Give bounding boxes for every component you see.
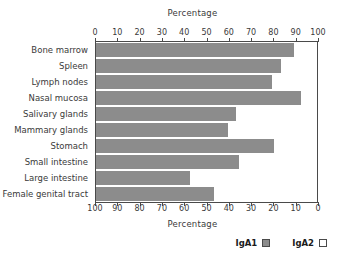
bar-segment-iga1 (96, 123, 229, 137)
bar-segment-iga2 (275, 139, 317, 153)
top-tick-label-80: 80 (268, 28, 278, 37)
bar-segment-iga2 (229, 123, 317, 137)
legend-label: IgA2 (292, 238, 314, 248)
top-tick-label-70: 70 (246, 28, 256, 37)
bar-row (96, 107, 317, 121)
bar-row (96, 91, 317, 105)
bottom-tick-label-10: 10 (291, 204, 301, 213)
bar-row (96, 59, 317, 73)
bar-segment-iga1 (96, 171, 191, 185)
category-label-small-intestine: Small intestine (25, 157, 88, 167)
legend-item-iga2[interactable]: IgA2 (292, 238, 327, 248)
top-tick-label-100: 100 (310, 28, 325, 37)
chart-figure: Percentage 0102030405060708090100 Bone m… (0, 0, 337, 259)
top-tick-label-10: 10 (112, 28, 122, 37)
bar-segment-iga2 (295, 43, 317, 57)
bar-row (96, 43, 317, 57)
category-label-bone-marrow: Bone marrow (31, 45, 88, 55)
category-label-female-genital-tract: Female genital tract (3, 189, 88, 199)
top-tick-label-90: 90 (291, 28, 301, 37)
legend-swatch (319, 239, 327, 247)
bar-segment-iga2 (302, 91, 317, 105)
bar-segment-iga1 (96, 139, 275, 153)
category-label-nasal-mucosa: Nasal mucosa (29, 93, 88, 103)
category-label-stomach: Stomach (51, 141, 88, 151)
chart-legend: IgA1IgA2 (0, 236, 327, 250)
bar-segment-iga2 (240, 155, 317, 169)
bottom-tick-label-20: 20 (268, 204, 278, 213)
bar-row (96, 139, 317, 153)
bottom-tick-label-30: 30 (246, 204, 256, 213)
bar-row (96, 187, 317, 201)
category-label-salivary-glands: Salivary glands (23, 109, 88, 119)
bar-segment-iga2 (237, 107, 317, 121)
bottom-tick-label-60: 60 (179, 204, 189, 213)
legend-label: IgA1 (236, 238, 258, 248)
top-axis-title: Percentage (0, 8, 337, 18)
bar-segment-iga1 (96, 155, 240, 169)
plot-area (95, 42, 318, 202)
top-tick-label-20: 20 (135, 28, 145, 37)
bar-segment-iga2 (215, 187, 317, 201)
category-label-large-intestine: Large intestine (24, 173, 88, 183)
legend-swatch (262, 239, 270, 247)
bottom-tick-label-90: 90 (112, 204, 122, 213)
top-tick-label-60: 60 (224, 28, 234, 37)
bar-row (96, 171, 317, 185)
bar-segment-iga2 (273, 75, 317, 89)
category-axis-labels: Bone marrowSpleenLymph nodesNasal mucosa… (0, 42, 92, 202)
bar-segment-iga2 (191, 171, 317, 185)
bar-row (96, 155, 317, 169)
bottom-tick-label-70: 70 (157, 204, 167, 213)
bar-segment-iga1 (96, 75, 273, 89)
bottom-tick-label-0: 0 (315, 204, 320, 213)
bar-segment-iga1 (96, 59, 282, 73)
bar-segment-iga1 (96, 91, 302, 105)
bar-row (96, 123, 317, 137)
category-label-lymph-nodes: Lymph nodes (32, 77, 88, 87)
bar-segment-iga1 (96, 107, 237, 121)
category-label-mammary-glands: Mammary glands (14, 125, 88, 135)
top-tick-label-30: 30 (157, 28, 167, 37)
bottom-tick-label-50: 50 (201, 204, 211, 213)
top-tick-label-50: 50 (201, 28, 211, 37)
bottom-tick-label-100: 100 (87, 204, 102, 213)
bottom-tick-label-80: 80 (135, 204, 145, 213)
legend-item-iga1[interactable]: IgA1 (236, 238, 271, 248)
bottom-axis-title: Percentage (0, 219, 337, 229)
category-label-spleen: Spleen (59, 61, 88, 71)
bottom-axis-tick-labels: 1009080706050403020100 (95, 204, 318, 215)
bar-segment-iga1 (96, 187, 215, 201)
bottom-tick-label-40: 40 (224, 204, 234, 213)
bar-segment-iga1 (96, 43, 295, 57)
top-tick-label-40: 40 (179, 28, 189, 37)
bar-row (96, 75, 317, 89)
bar-segment-iga2 (282, 59, 317, 73)
top-tick-label-0: 0 (92, 28, 97, 37)
